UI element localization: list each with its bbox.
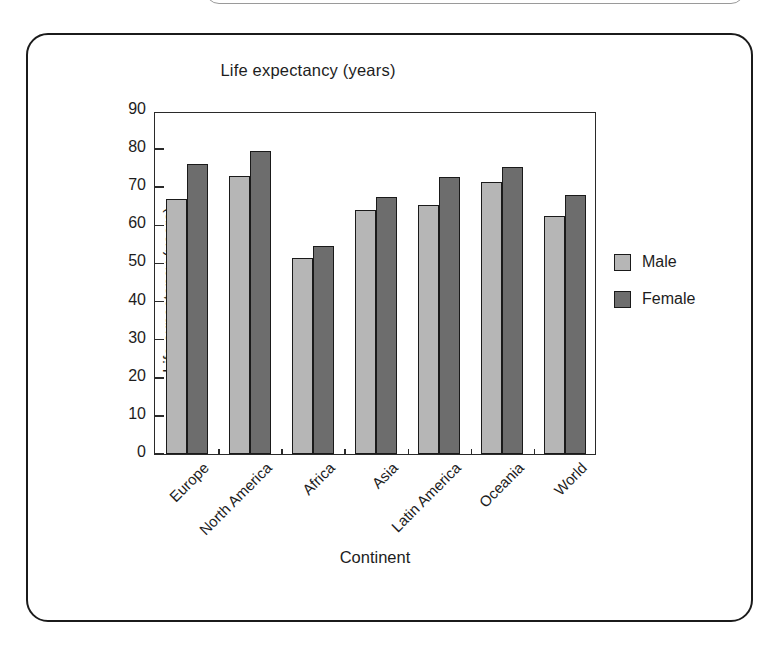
y-tick-label: 50 [128,252,146,270]
bar-male [166,199,187,454]
bar-group [481,113,523,454]
bar-group [418,113,460,454]
bar-female [439,177,460,454]
x-tick-mark [534,449,536,455]
legend-swatch [614,254,631,271]
legend: MaleFemale [614,253,695,327]
x-tick-label: Africa [299,459,338,498]
bar-male [481,182,502,454]
y-tick-label: 80 [128,138,146,156]
figure-frame: Life expectancy (years) Life expectancy … [26,33,753,622]
x-tick-mark [471,449,473,455]
bar-female [565,195,586,454]
bar-group [355,113,397,454]
legend-label: Female [642,290,695,308]
bar-male [355,210,376,454]
bar-chart: Life expectancy (years) Life expectancy … [28,35,755,624]
bar-female [187,164,208,454]
bar-male [292,258,313,454]
legend-item: Female [614,290,695,308]
bar-male [544,216,565,454]
y-tick-label: 90 [128,100,146,118]
x-tick-mark [344,449,346,455]
bar-group [166,113,208,454]
bar-group [229,113,271,454]
legend-item: Male [614,253,695,271]
cutoff-panel-above [205,0,745,4]
x-tick-label: World [551,459,591,499]
bar-group [544,113,586,454]
bar-female [376,197,397,454]
bar-female [313,246,334,454]
bars-layer [155,113,595,454]
x-tick-label: Europe [165,459,211,505]
bar-female [502,167,523,454]
y-tick-label: 30 [128,329,146,347]
y-tick-label: 40 [128,291,146,309]
legend-swatch [614,291,631,308]
bar-male [418,205,439,454]
x-tick-mark [408,449,410,455]
y-tick-label: 60 [128,214,146,232]
y-tick-label: 10 [128,405,146,423]
plot-area: Life expectancy (years) 0102030405060708… [154,112,596,455]
chart-title: Life expectancy (years) [28,61,588,80]
x-axis-tick-labels: EuropeNorth AmericaAfricaAsiaLatin Ameri… [154,459,596,559]
x-axis-title: Continent [154,548,596,567]
x-tick-mark [218,449,220,455]
bar-group [292,113,334,454]
y-tick-label: 0 [137,443,146,461]
bar-female [250,151,271,454]
x-tick-mark [281,449,283,455]
x-tick-label: Oceania [476,459,528,511]
legend-label: Male [642,253,677,271]
y-tick-label: 20 [128,367,146,385]
y-tick-label: 70 [128,176,146,194]
bar-male [229,176,250,454]
x-tick-label: Asia [368,459,401,492]
